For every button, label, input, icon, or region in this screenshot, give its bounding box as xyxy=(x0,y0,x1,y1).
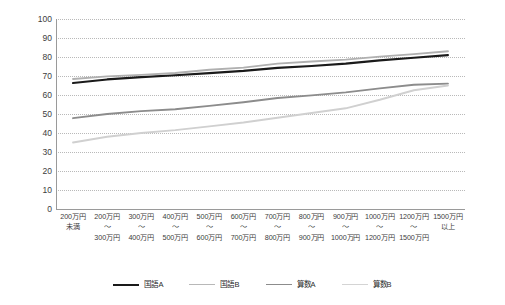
x-category-line: 300万円 xyxy=(128,212,154,222)
x-category-line: 1200万円 xyxy=(365,233,394,243)
x-category-line: 〜 xyxy=(376,222,383,232)
legend-item-国語A[interactable]: 国語A xyxy=(113,281,163,289)
x-category-label-1: 200万円〜300万円 xyxy=(90,212,124,274)
x-axis-line xyxy=(56,209,465,210)
y-axis-line xyxy=(56,19,57,209)
x-category-line: 900万円 xyxy=(299,233,325,243)
legend-item-算数A[interactable]: 算数A xyxy=(266,281,316,289)
x-category-label-11: 1500万円以上 xyxy=(431,212,465,274)
legend-label: 算数B xyxy=(373,281,392,289)
y-tick-label-20: 20 xyxy=(6,167,52,176)
x-category-line: 800万円 xyxy=(265,233,291,243)
y-tick-label-10: 10 xyxy=(6,186,52,195)
series-line-国語A xyxy=(73,55,448,83)
x-category-line: 400万円 xyxy=(128,233,154,243)
legend-item-算数B[interactable]: 算数B xyxy=(342,281,392,289)
x-category-line: 1200万円 xyxy=(399,212,428,222)
x-category-line: 1500万円 xyxy=(399,233,428,243)
x-category-line: 400万円 xyxy=(163,212,189,222)
x-category-line: 〜 xyxy=(206,222,213,232)
x-category-line: 700万円 xyxy=(231,233,257,243)
x-category-line: 500万円 xyxy=(163,233,189,243)
x-category-line: 1000万円 xyxy=(331,233,360,243)
series-line-算数A xyxy=(73,84,448,119)
x-category-line: 〜 xyxy=(104,222,111,232)
x-category-label-8: 900万円〜1000万円 xyxy=(329,212,363,274)
line-chart: 1009080706050403020100 200万円未満200万円〜300万… xyxy=(0,0,505,305)
x-category-label-4: 500万円〜600万円 xyxy=(192,212,226,274)
legend-label: 国語A xyxy=(144,281,163,289)
x-category-line: 700万円 xyxy=(265,212,291,222)
x-category-label-5: 600万円〜700万円 xyxy=(226,212,260,274)
legend-swatch-icon xyxy=(266,284,292,285)
legend-swatch-icon xyxy=(113,284,139,286)
x-category-line: 〜 xyxy=(138,222,145,232)
x-category-line: 〜 xyxy=(274,222,281,232)
x-category-line: 〜 xyxy=(240,222,247,232)
chart-legend: 国語A国語B算数A算数B xyxy=(0,281,505,289)
x-category-line: 800万円 xyxy=(299,212,325,222)
x-category-line: 〜 xyxy=(308,222,315,232)
x-category-line: 〜 xyxy=(172,222,179,232)
y-axis-tick-labels: 1009080706050403020100 xyxy=(0,0,52,305)
x-category-label-6: 700万円〜800万円 xyxy=(260,212,294,274)
x-category-line: 300万円 xyxy=(94,233,120,243)
legend-label: 国語B xyxy=(220,281,239,289)
y-tick-label-70: 70 xyxy=(6,72,52,81)
legend-swatch-icon xyxy=(189,284,215,285)
x-category-line: 600万円 xyxy=(231,212,257,222)
y-tick-label-0: 0 xyxy=(6,205,52,214)
plot-area xyxy=(56,19,465,209)
x-category-line: 1000万円 xyxy=(365,212,394,222)
series-line-算数B xyxy=(73,86,448,143)
x-category-label-2: 300万円〜400万円 xyxy=(124,212,158,274)
series-line-国語B xyxy=(73,51,448,79)
y-tick-label-50: 50 xyxy=(6,110,52,119)
y-tick-label-60: 60 xyxy=(6,91,52,100)
x-category-label-7: 800万円〜900万円 xyxy=(295,212,329,274)
x-category-line: 200万円 xyxy=(94,212,120,222)
y-tick-label-30: 30 xyxy=(6,148,52,157)
y-tick-label-80: 80 xyxy=(6,53,52,62)
x-category-label-3: 400万円〜500万円 xyxy=(158,212,192,274)
legend-swatch-icon xyxy=(342,284,368,285)
x-category-label-10: 1200万円〜1500万円 xyxy=(397,212,431,274)
y-tick-label-90: 90 xyxy=(6,34,52,43)
x-category-line: 以上 xyxy=(441,222,455,232)
x-category-line: 200万円 xyxy=(60,212,86,222)
x-category-line: 〜 xyxy=(342,222,349,232)
x-category-line: 〜 xyxy=(410,222,417,232)
y-tick-label-40: 40 xyxy=(6,129,52,138)
legend-item-国語B[interactable]: 国語B xyxy=(189,281,239,289)
x-category-label-9: 1000万円〜1200万円 xyxy=(363,212,397,274)
x-category-line: 1500万円 xyxy=(433,212,462,222)
x-category-line: 500万円 xyxy=(197,212,223,222)
x-category-line: 600万円 xyxy=(197,233,223,243)
x-axis-category-labels: 200万円未満200万円〜300万円300万円〜400万円400万円〜500万円… xyxy=(56,212,465,274)
x-category-label-0: 200万円未満 xyxy=(56,212,90,274)
x-category-line: 未満 xyxy=(66,222,80,232)
x-category-line: 900万円 xyxy=(333,212,359,222)
y-tick-label-100: 100 xyxy=(6,15,52,24)
series-lines xyxy=(56,19,465,209)
legend-label: 算数A xyxy=(297,281,316,289)
